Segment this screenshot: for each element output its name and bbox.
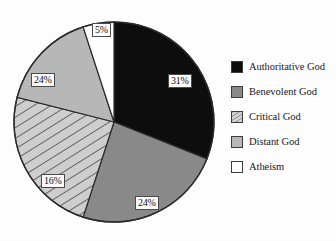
legend-swatch-light-gray-icon — [231, 136, 243, 148]
slice-value-label-atheism: 5% — [92, 23, 111, 37]
legend-label-benevolent-god: Benevolent God — [249, 86, 317, 98]
legend-label-authoritative-god: Authoritative God — [249, 61, 325, 73]
legend-item-authoritative-god[interactable]: Authoritative God — [231, 60, 335, 74]
legend-swatch-medium-gray-icon — [231, 86, 243, 98]
pie-chart-svg — [8, 15, 220, 230]
legend-item-distant-god[interactable]: Distant God — [231, 135, 335, 149]
pie-chart-plot-area — [8, 15, 220, 230]
legend: Authoritative God Benevolent God Critica… — [231, 60, 335, 174]
legend-label-atheism: Atheism — [249, 161, 284, 173]
slice-value-label-critical-god: 16% — [41, 174, 65, 188]
slice-value-label-authoritative-god: 31% — [168, 74, 192, 88]
legend-swatch-black-icon — [231, 61, 243, 73]
slice-value-label-distant-god: 24% — [31, 73, 55, 87]
legend-item-benevolent-god[interactable]: Benevolent God — [231, 85, 335, 99]
legend-swatch-white-icon — [231, 161, 243, 173]
legend-label-critical-god: Critical God — [249, 111, 301, 123]
legend-item-critical-god[interactable]: Critical God — [231, 110, 335, 124]
legend-swatch-hatched-icon — [231, 111, 243, 123]
legend-item-atheism[interactable]: Atheism — [231, 160, 335, 174]
legend-label-distant-god: Distant God — [249, 136, 300, 148]
pie-chart-figure: 31% 24% 16% 24% 5% Authoritative God Ben… — [0, 0, 336, 241]
slice-value-label-benevolent-god: 24% — [135, 196, 159, 210]
